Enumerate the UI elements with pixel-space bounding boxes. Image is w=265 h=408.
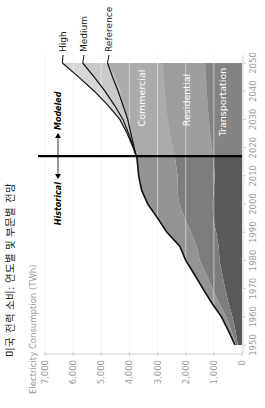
value-tick-label: 6,000 — [68, 360, 78, 384]
area-label-residential: Residential — [181, 74, 192, 126]
year-tick-label: 1950 — [248, 334, 258, 356]
stacked-areas — [62, 63, 242, 345]
value-tick-label: 4,000 — [124, 360, 134, 384]
scenario-label-high: High — [58, 31, 68, 52]
scenario-label-medium: Medium — [79, 16, 89, 52]
medium-leader-line — [83, 55, 84, 63]
high-leader-line — [62, 55, 63, 63]
modeled-label: Modeled — [54, 91, 63, 130]
value-tick-label: 3,000 — [153, 360, 163, 384]
arrow-up-icon — [55, 133, 61, 138]
year-tick-label: 2010 — [248, 165, 258, 187]
year-tick-label: 2050 — [248, 52, 258, 74]
year-tick-label: 1960 — [248, 306, 258, 328]
area-label-transportation: Transportation — [217, 68, 228, 138]
value-tick-label: 5,000 — [96, 360, 106, 384]
year-tick-label: 1970 — [248, 278, 258, 300]
arrow-down-icon — [55, 174, 61, 179]
year-tick-label: 2040 — [248, 80, 258, 102]
y-axis-title: Electricity Consumption (TWh) — [28, 264, 38, 394]
year-tick-label: 1990 — [248, 221, 258, 243]
year-tick-label: 1980 — [248, 250, 258, 272]
year-tick-label: 2030 — [248, 109, 258, 131]
year-tick-label: 2020 — [248, 137, 258, 159]
chart-title-text: 미국 전력 소비: 연도별 및 부문별 전망 — [4, 183, 16, 357]
value-tick-label: 0 — [237, 360, 247, 365]
reference-leader-line — [107, 55, 109, 63]
scenario-label-reference: Reference — [104, 6, 114, 52]
year-tick-label: 2000 — [248, 193, 258, 215]
value-tick-label: 1,000 — [209, 360, 219, 384]
value-tick-label: 7,000 — [40, 360, 50, 384]
value-tick-label: 2,000 — [181, 360, 191, 384]
historical-label: Historical — [54, 182, 63, 225]
area-label-commercial: Commercial — [136, 70, 147, 127]
chart-stage: 01,0002,0003,0004,0005,0006,0007,0001950… — [0, 0, 265, 408]
electricity-consumption-chart: 01,0002,0003,0004,0005,0006,0007,0001950… — [0, 0, 265, 408]
